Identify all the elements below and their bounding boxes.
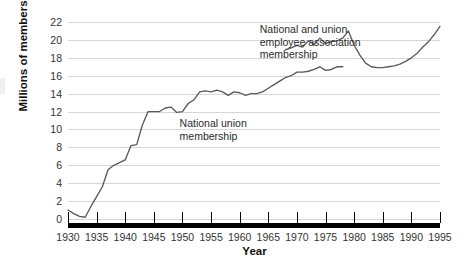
annotation-national-and-union-employee-association-membership: National and union employee association … [260, 23, 361, 61]
chart-container: Millions of members Year 024681012141618… [0, 0, 469, 268]
annotation-national-union-membership: National union membership [180, 117, 247, 143]
